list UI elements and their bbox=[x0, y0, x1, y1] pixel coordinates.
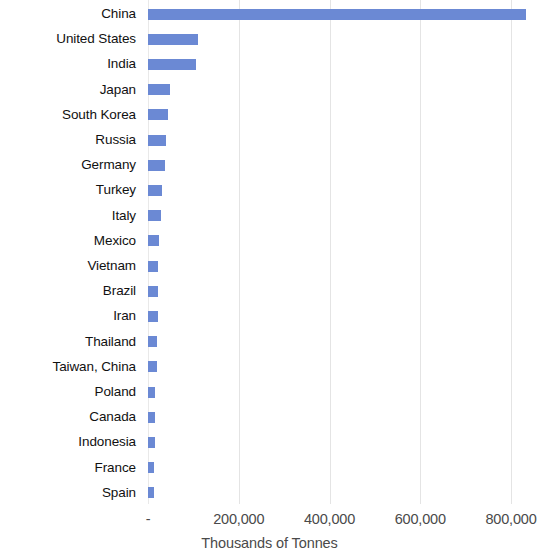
category-label-italy: Italy bbox=[0, 209, 141, 223]
bar-united-states bbox=[148, 34, 198, 45]
bar-japan bbox=[148, 84, 170, 95]
bar-south-korea bbox=[148, 109, 168, 120]
bar-mexico bbox=[148, 235, 159, 246]
category-label-iran: Iran bbox=[0, 309, 141, 323]
category-label-spain: Spain bbox=[0, 486, 141, 500]
gridline-800000 bbox=[511, 0, 512, 504]
gridline-600000 bbox=[420, 0, 421, 504]
bar-india bbox=[148, 59, 196, 70]
x-tick-label-600000: 600,000 bbox=[395, 510, 446, 528]
gridline-200000 bbox=[239, 0, 240, 504]
category-axis-labels: ChinaUnited StatesIndiaJapanSouth KoreaR… bbox=[0, 0, 141, 504]
x-tick-label-200000: 200,000 bbox=[213, 510, 264, 528]
category-label-turkey: Turkey bbox=[0, 183, 141, 197]
category-label-poland: Poland bbox=[0, 385, 141, 399]
bar-taiwan-china bbox=[148, 361, 157, 372]
bar-russia bbox=[148, 135, 166, 146]
category-label-indonesia: Indonesia bbox=[0, 435, 141, 449]
category-label-japan: Japan bbox=[0, 83, 141, 97]
bar-thailand bbox=[148, 336, 157, 347]
x-tick-label-400000: 400,000 bbox=[304, 510, 355, 528]
gridline-400000 bbox=[330, 0, 331, 504]
bar-iran bbox=[148, 311, 158, 322]
category-label-mexico: Mexico bbox=[0, 234, 141, 248]
bar-italy bbox=[148, 210, 161, 221]
bar-spain bbox=[148, 487, 154, 498]
bar-france bbox=[148, 462, 154, 473]
x-tick-label-800000: 800,000 bbox=[485, 510, 536, 528]
category-label-china: China bbox=[0, 7, 141, 21]
bar-turkey bbox=[148, 185, 162, 196]
category-label-thailand: Thailand bbox=[0, 335, 141, 349]
category-label-brazil: Brazil bbox=[0, 284, 141, 298]
category-label-canada: Canada bbox=[0, 410, 141, 424]
bar-chart: ChinaUnited StatesIndiaJapanSouth KoreaR… bbox=[0, 0, 539, 559]
bar-brazil bbox=[148, 286, 158, 297]
category-label-south-korea: South Korea bbox=[0, 108, 141, 122]
x-tick-label-0: - bbox=[146, 510, 151, 528]
category-label-germany: Germany bbox=[0, 158, 141, 172]
category-label-russia: Russia bbox=[0, 133, 141, 147]
category-label-taiwan-china: Taiwan, China bbox=[0, 360, 141, 374]
bar-germany bbox=[148, 160, 165, 171]
bar-indonesia bbox=[148, 437, 155, 448]
bar-poland bbox=[148, 387, 155, 398]
bar-china bbox=[148, 9, 526, 20]
bar-vietnam bbox=[148, 261, 158, 272]
category-label-france: France bbox=[0, 461, 141, 475]
category-label-india: India bbox=[0, 57, 141, 71]
bar-canada bbox=[148, 412, 155, 423]
x-axis-title: Thousands of Tonnes bbox=[0, 533, 539, 553]
gridline-0 bbox=[148, 0, 149, 504]
category-label-united-states: United States bbox=[0, 32, 141, 46]
plot-area bbox=[148, 0, 531, 504]
x-axis-ticks: -200,000400,000600,000800,000 bbox=[0, 504, 539, 534]
category-label-vietnam: Vietnam bbox=[0, 259, 141, 273]
